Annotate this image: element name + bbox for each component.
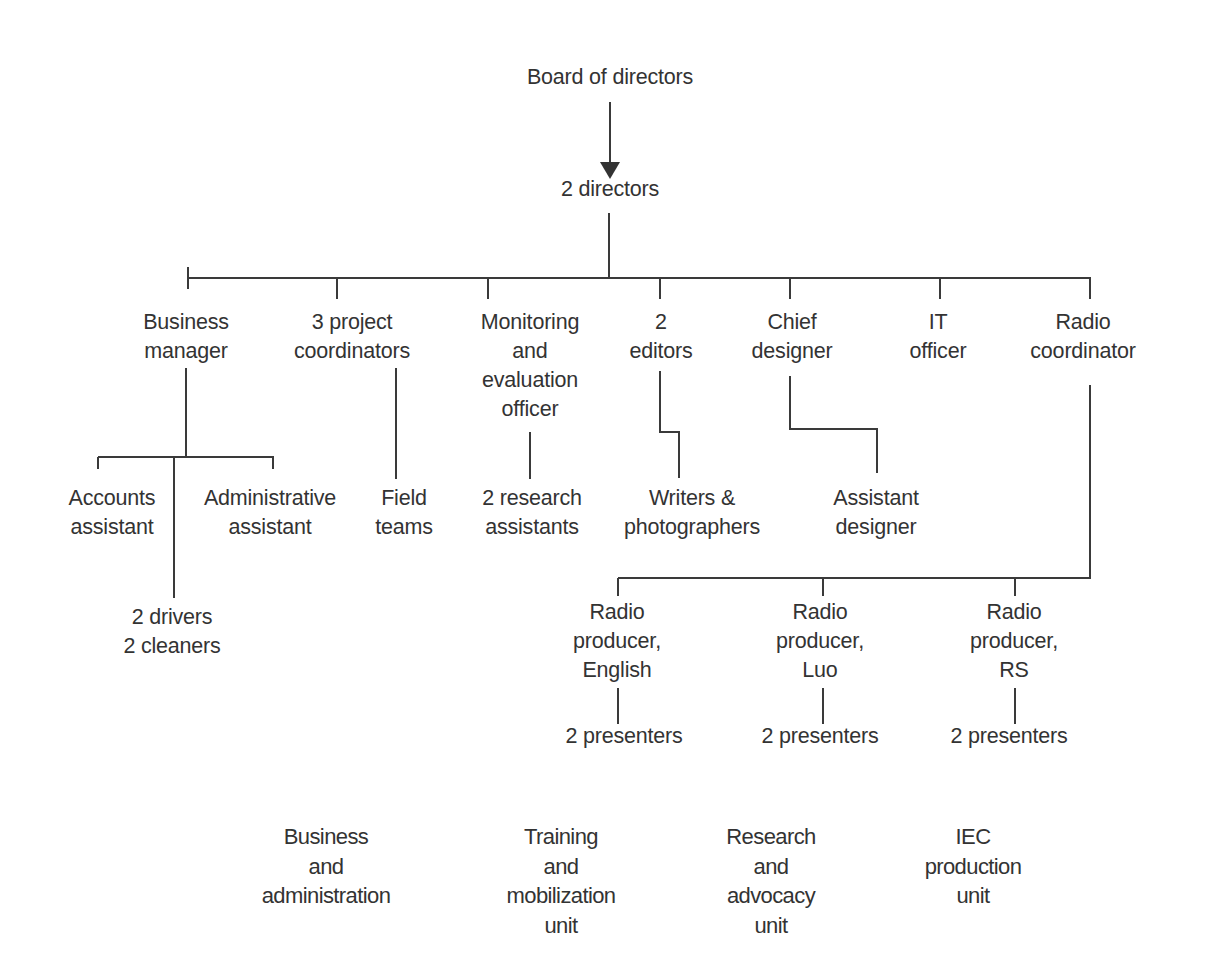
unit-label-line: Training <box>507 822 616 852</box>
org-chart: Board of directors 2 directors Business … <box>0 0 1213 979</box>
node-label-line: teams <box>375 513 433 542</box>
node-monitoring-evaluation-officer: Monitoring and evaluation officer <box>481 308 579 424</box>
node-label-line: 2 presenters <box>565 722 682 751</box>
unit-label-line: unit <box>726 911 815 941</box>
node-label-line: editors <box>629 337 692 366</box>
node-label-line: RS <box>970 656 1058 685</box>
unit-label-line: advocacy <box>726 881 815 911</box>
node-label-line: photographers <box>624 513 760 542</box>
node-research-assistants: 2 research assistants <box>482 484 582 542</box>
node-label-line: coordinator <box>1030 337 1135 366</box>
node-label-line: 2 presenters <box>761 722 878 751</box>
node-radio-coordinator: Radio coordinator <box>1030 308 1135 366</box>
node-label-line: officer <box>910 337 967 366</box>
node-administrative-assistant: Administrative assistant <box>204 484 336 542</box>
node-writers-photographers: Writers & photographers <box>624 484 760 542</box>
unit-label-line: production <box>925 852 1022 882</box>
unit-label-line: and <box>262 852 391 882</box>
node-business-manager: Business manager <box>143 308 229 366</box>
node-label-line: Radio <box>970 598 1058 627</box>
node-label-line: Field <box>375 484 433 513</box>
node-presenters-luo: 2 presenters <box>761 722 878 751</box>
node-presenters-rs: 2 presenters <box>950 722 1067 751</box>
node-label-line: 2 presenters <box>950 722 1067 751</box>
node-label-line: 2 <box>629 308 692 337</box>
node-label-line: Writers & <box>624 484 760 513</box>
node-editors: 2 editors <box>629 308 692 366</box>
node-label-line: Radio <box>1030 308 1135 337</box>
node-label-line: 2 research <box>482 484 582 513</box>
node-drivers-cleaners: 2 drivers 2 cleaners <box>123 603 220 661</box>
node-label-line: Business <box>143 308 229 337</box>
node-label-line: 3 project <box>294 308 410 337</box>
node-label-line: designer <box>833 513 918 542</box>
node-label-line: 2 cleaners <box>123 632 220 661</box>
node-label-line: producer, <box>970 627 1058 656</box>
node-label-line: 2 drivers <box>123 603 220 632</box>
node-label: 2 directors <box>561 175 659 204</box>
node-label-line: coordinators <box>294 337 410 366</box>
unit-label-line: Business <box>262 822 391 852</box>
node-label-line: assistant <box>69 513 156 542</box>
node-label-line: Accounts <box>69 484 156 513</box>
node-label-line: manager <box>143 337 229 366</box>
node-label-line: and <box>481 337 579 366</box>
node-assistant-designer: Assistant designer <box>833 484 918 542</box>
node-label-line: Administrative <box>204 484 336 513</box>
node-project-coordinators: 3 project coordinators <box>294 308 410 366</box>
unit-iec-production: IEC production unit <box>925 822 1022 911</box>
node-radio-producer-english: Radio producer, English <box>573 598 661 685</box>
node-label-line: Monitoring <box>481 308 579 337</box>
node-label: Board of directors <box>527 63 693 92</box>
node-label-line: assistant <box>204 513 336 542</box>
node-label-line: Chief <box>752 308 833 337</box>
unit-label-line: unit <box>925 881 1022 911</box>
node-chief-designer: Chief designer <box>752 308 833 366</box>
node-label-line: producer, <box>776 627 864 656</box>
node-it-officer: IT officer <box>910 308 967 366</box>
node-label-line: Assistant <box>833 484 918 513</box>
node-label-line: officer <box>481 395 579 424</box>
node-radio-producer-luo: Radio producer, Luo <box>776 598 864 685</box>
unit-training-mobilization: Training and mobilization unit <box>507 822 616 940</box>
node-label-line: producer, <box>573 627 661 656</box>
node-field-teams: Field teams <box>375 484 433 542</box>
unit-label-line: and <box>726 852 815 882</box>
unit-label-line: and <box>507 852 616 882</box>
node-label-line: Radio <box>776 598 864 627</box>
node-label-line: evaluation <box>481 366 579 395</box>
node-presenters-english: 2 presenters <box>565 722 682 751</box>
node-label-line: Radio <box>573 598 661 627</box>
unit-label-line: administration <box>262 881 391 911</box>
unit-label-line: Research <box>726 822 815 852</box>
unit-business-administration: Business and administration <box>262 822 391 911</box>
node-accounts-assistant: Accounts assistant <box>69 484 156 542</box>
node-label-line: designer <box>752 337 833 366</box>
node-label-line: assistants <box>482 513 582 542</box>
node-board-of-directors: Board of directors <box>527 63 693 92</box>
node-radio-producer-rs: Radio producer, RS <box>970 598 1058 685</box>
unit-label-line: IEC <box>925 822 1022 852</box>
unit-label-line: unit <box>507 911 616 941</box>
unit-label-line: mobilization <box>507 881 616 911</box>
node-label-line: Luo <box>776 656 864 685</box>
node-label-line: English <box>573 656 661 685</box>
node-label-line: IT <box>910 308 967 337</box>
unit-research-advocacy: Research and advocacy unit <box>726 822 815 940</box>
node-directors: 2 directors <box>561 175 659 204</box>
